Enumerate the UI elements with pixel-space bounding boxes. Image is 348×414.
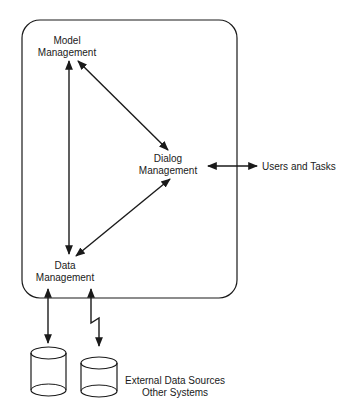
database-cylinder-internal — [31, 347, 66, 396]
users-and-tasks-label: Users and Tasks — [262, 161, 336, 172]
data-label-line1: Data — [54, 260, 76, 271]
dss-diagram: Model Management Dialog Management Data … — [0, 0, 348, 414]
external-sources-label-line2: Other Systems — [142, 387, 208, 398]
node-dialog-management: Dialog Management — [139, 153, 198, 176]
data-label-line2: Management — [36, 272, 95, 283]
database-cylinder-external — [81, 357, 117, 397]
external-sources-label-line1: External Data Sources — [125, 375, 225, 386]
model-label-line1: Model — [53, 35, 80, 46]
dialog-label-line1: Dialog — [154, 153, 182, 164]
node-model-management: Model Management — [38, 35, 97, 58]
system-boundary — [22, 20, 237, 298]
arrow-model-dialog — [78, 61, 168, 150]
model-label-line2: Management — [38, 47, 97, 58]
dialog-label-line2: Management — [139, 165, 198, 176]
arrow-data-dialog — [76, 179, 170, 256]
node-data-management: Data Management — [36, 260, 95, 283]
